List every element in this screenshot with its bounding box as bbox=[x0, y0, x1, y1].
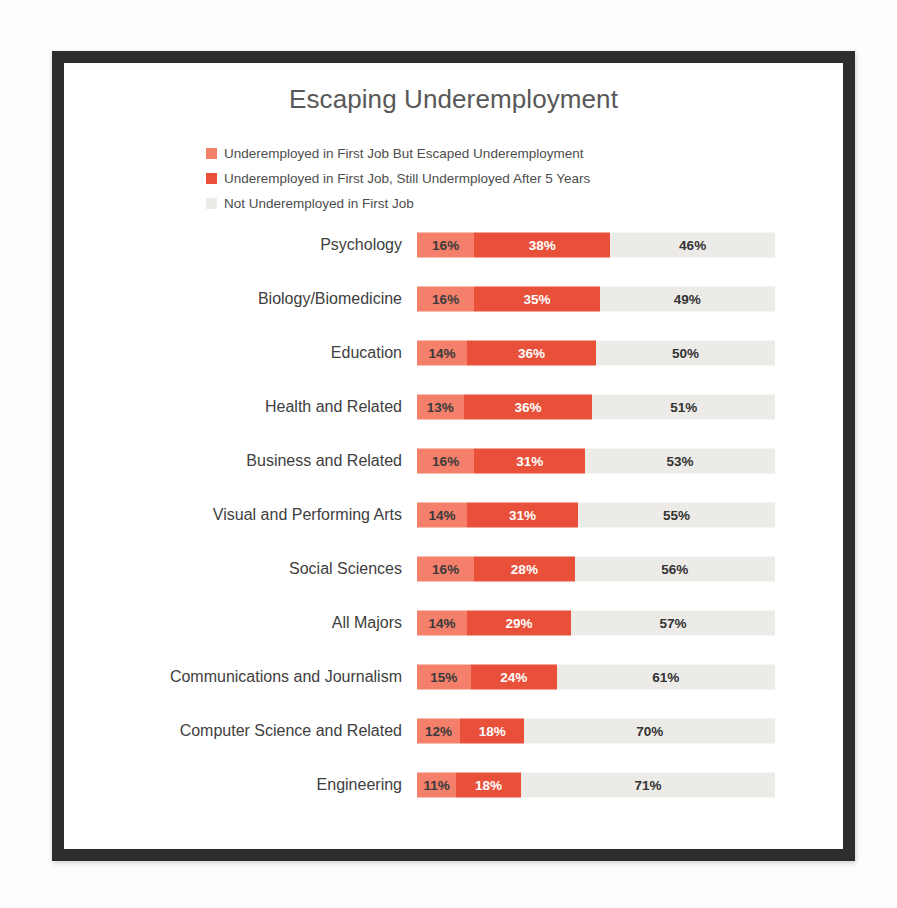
bar-row: Education14%36%50% bbox=[64, 326, 843, 380]
bar-row: Visual and Performing Arts14%31%55% bbox=[64, 488, 843, 542]
bar-segment-not[interactable]: 71% bbox=[521, 773, 775, 798]
legend-item-label: Not Underemployed in First Job bbox=[224, 197, 414, 211]
bar-value-label: 36% bbox=[518, 346, 545, 360]
category-axis-label: Biology/Biomedicine bbox=[64, 291, 402, 307]
bar-value-label: 31% bbox=[516, 454, 543, 468]
legend-item-label: Underemployed in First Job, Still Underm… bbox=[224, 172, 590, 186]
stacked-bar: 16%28%56% bbox=[417, 557, 775, 582]
bar-value-label: 46% bbox=[679, 238, 706, 252]
bar-segment-escaped[interactable]: 14% bbox=[417, 503, 467, 528]
bar-segment-not[interactable]: 53% bbox=[585, 449, 775, 474]
bar-segment-not[interactable]: 70% bbox=[524, 719, 775, 744]
bar-value-label: 49% bbox=[674, 292, 701, 306]
bar-segment-escaped[interactable]: 15% bbox=[417, 665, 471, 690]
bar-segment-still[interactable]: 18% bbox=[456, 773, 520, 798]
category-axis-label: Psychology bbox=[64, 237, 402, 253]
bar-segment-not[interactable]: 49% bbox=[600, 287, 775, 312]
legend-item-not[interactable]: Not Underemployed in First Job bbox=[206, 191, 766, 216]
bar-value-label: 13% bbox=[427, 400, 454, 414]
bar-value-label: 50% bbox=[672, 346, 699, 360]
bar-segment-still[interactable]: 28% bbox=[474, 557, 574, 582]
legend-swatch-icon bbox=[206, 173, 217, 184]
category-axis-label: Social Sciences bbox=[64, 561, 402, 577]
bar-segment-still[interactable]: 31% bbox=[467, 503, 578, 528]
bar-segment-still[interactable]: 24% bbox=[471, 665, 557, 690]
legend-item-escaped[interactable]: Underemployed in First Job But Escaped U… bbox=[206, 141, 766, 166]
category-axis-label: Health and Related bbox=[64, 399, 402, 415]
bar-value-label: 16% bbox=[432, 454, 459, 468]
bar-segment-not[interactable]: 57% bbox=[571, 611, 775, 636]
bar-value-label: 29% bbox=[506, 616, 533, 630]
stacked-bar: 15%24%61% bbox=[417, 665, 775, 690]
bar-value-label: 53% bbox=[667, 454, 694, 468]
bar-row: Business and Related16%31%53% bbox=[64, 434, 843, 488]
bar-value-label: 11% bbox=[424, 778, 450, 792]
bar-segment-still[interactable]: 38% bbox=[474, 233, 610, 258]
bar-segment-escaped[interactable]: 16% bbox=[417, 449, 474, 474]
bar-value-label: 35% bbox=[523, 292, 550, 306]
bar-segment-still[interactable]: 29% bbox=[467, 611, 571, 636]
stacked-bar: 16%35%49% bbox=[417, 287, 775, 312]
bar-value-label: 16% bbox=[432, 238, 459, 252]
bar-row: Biology/Biomedicine16%35%49% bbox=[64, 272, 843, 326]
bar-segment-still[interactable]: 36% bbox=[464, 395, 593, 420]
stacked-bar: 11%18%71% bbox=[417, 773, 775, 798]
chart-legend: Underemployed in First Job But Escaped U… bbox=[206, 141, 766, 216]
bar-segment-escaped[interactable]: 14% bbox=[417, 341, 467, 366]
bar-row: Communications and Journalism15%24%61% bbox=[64, 650, 843, 704]
bar-value-label: 12% bbox=[425, 724, 452, 738]
chart-area: Escaping Underemployment Underemployed i… bbox=[64, 63, 843, 849]
bar-value-label: 24% bbox=[500, 670, 527, 684]
bar-value-label: 51% bbox=[670, 400, 697, 414]
bar-row: Engineering11%18%71% bbox=[64, 758, 843, 812]
stacked-bar: 12%18%70% bbox=[417, 719, 775, 744]
bar-segment-not[interactable]: 56% bbox=[575, 557, 775, 582]
bar-segment-not[interactable]: 46% bbox=[610, 233, 775, 258]
category-axis-label: Communications and Journalism bbox=[64, 669, 402, 685]
bar-value-label: 28% bbox=[511, 562, 538, 576]
bar-segment-not[interactable]: 51% bbox=[592, 395, 775, 420]
bar-value-label: 55% bbox=[663, 508, 690, 522]
bar-segment-still[interactable]: 31% bbox=[474, 449, 585, 474]
bar-segment-escaped[interactable]: 11% bbox=[417, 773, 456, 798]
bar-value-label: 16% bbox=[432, 562, 459, 576]
bar-row: Social Sciences16%28%56% bbox=[64, 542, 843, 596]
bar-segment-not[interactable]: 55% bbox=[578, 503, 775, 528]
page-title: Escaping Underemployment bbox=[64, 84, 843, 115]
stacked-bar: 16%38%46% bbox=[417, 233, 775, 258]
bar-segment-still[interactable]: 35% bbox=[474, 287, 599, 312]
category-axis-label: Computer Science and Related bbox=[64, 723, 402, 739]
bar-segment-escaped[interactable]: 16% bbox=[417, 287, 474, 312]
bar-segment-still[interactable]: 36% bbox=[467, 341, 596, 366]
category-axis-label: All Majors bbox=[64, 615, 402, 631]
stacked-bar: 14%29%57% bbox=[417, 611, 775, 636]
category-axis-label: Engineering bbox=[64, 777, 402, 793]
legend-item-still[interactable]: Underemployed in First Job, Still Underm… bbox=[206, 166, 766, 191]
bar-value-label: 18% bbox=[479, 724, 506, 738]
bar-segment-still[interactable]: 18% bbox=[460, 719, 524, 744]
bar-value-label: 57% bbox=[659, 616, 686, 630]
bar-value-label: 14% bbox=[429, 508, 456, 522]
category-axis-label: Visual and Performing Arts bbox=[64, 507, 402, 523]
chart-plot-area: Psychology16%38%46%Biology/Biomedicine16… bbox=[64, 218, 843, 812]
bar-row: All Majors14%29%57% bbox=[64, 596, 843, 650]
bar-value-label: 18% bbox=[475, 778, 502, 792]
bar-row: Computer Science and Related12%18%70% bbox=[64, 704, 843, 758]
bar-value-label: 70% bbox=[636, 724, 663, 738]
bar-segment-escaped[interactable]: 12% bbox=[417, 719, 460, 744]
bar-segment-escaped[interactable]: 13% bbox=[417, 395, 464, 420]
bar-value-label: 36% bbox=[514, 400, 541, 414]
bar-segment-escaped[interactable]: 16% bbox=[417, 557, 474, 582]
bar-value-label: 16% bbox=[432, 292, 459, 306]
bar-segment-escaped[interactable]: 14% bbox=[417, 611, 467, 636]
bar-value-label: 61% bbox=[652, 670, 679, 684]
legend-item-label: Underemployed in First Job But Escaped U… bbox=[224, 147, 583, 161]
bar-value-label: 31% bbox=[509, 508, 536, 522]
bar-segment-escaped[interactable]: 16% bbox=[417, 233, 474, 258]
bar-value-label: 14% bbox=[429, 616, 456, 630]
bar-segment-not[interactable]: 61% bbox=[557, 665, 775, 690]
bar-value-label: 38% bbox=[529, 238, 556, 252]
stacked-bar: 16%31%53% bbox=[417, 449, 775, 474]
bar-segment-not[interactable]: 50% bbox=[596, 341, 775, 366]
category-axis-label: Education bbox=[64, 345, 402, 361]
